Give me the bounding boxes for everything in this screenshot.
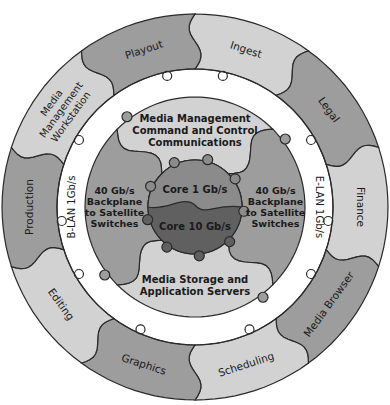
core-knob [203,155,213,165]
outer-label-finance: Finance [355,187,367,227]
core-knob [225,237,235,247]
puzzle-knob [100,270,110,280]
core-knob [146,181,156,191]
core-knob [162,242,172,252]
core-knob [169,158,179,168]
puzzle-knob [258,292,268,302]
band-left-label: B-LAN 1Gb/s [66,176,77,239]
middle-label-top: Media ManagementCommand and ControlCommu… [132,113,257,148]
core-bottom-label: Core 10 Gb/s [159,221,231,232]
middle-label-bottom: Media Storage andApplication Servers [140,274,250,297]
outer-label-production: Production [23,179,35,235]
band-right-label: E-LAN 1Gb/s [314,176,325,238]
core-top-label: Core 1 Gb/s [163,184,228,195]
core-knob [230,174,240,184]
core-knob [194,251,204,261]
puzzle-knob [280,134,290,144]
network-ring-diagram: IngestLegalFinanceMedia BrowserSchedulin… [0,0,390,405]
puzzle-knob [122,112,132,122]
